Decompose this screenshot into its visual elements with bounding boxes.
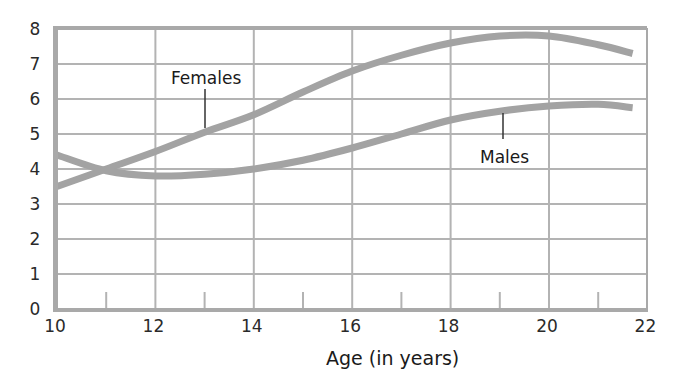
x-tick-14: 14 xyxy=(241,316,263,336)
y-axis-tick-labels: 012345678 xyxy=(30,19,41,319)
y-tick-6: 6 xyxy=(30,89,41,109)
series-label-females: Females xyxy=(171,68,241,88)
x-tick-10: 10 xyxy=(44,316,66,336)
y-tick-8: 8 xyxy=(30,19,41,39)
curve-males xyxy=(57,104,633,176)
y-tick-1: 1 xyxy=(30,264,41,284)
y-tick-5: 5 xyxy=(30,124,41,144)
curve-females xyxy=(57,35,633,186)
x-tick-18: 18 xyxy=(438,316,460,336)
x-axis-title: Age (in years) xyxy=(326,347,459,369)
y-tick-2: 2 xyxy=(30,229,41,249)
y-tick-7: 7 xyxy=(30,54,41,74)
x-axis-tick-labels: 10121416182022 xyxy=(44,316,656,336)
y-tick-0: 0 xyxy=(30,299,41,319)
x-tick-16: 16 xyxy=(339,316,361,336)
y-tick-4: 4 xyxy=(30,159,41,179)
x-tick-12: 12 xyxy=(143,316,165,336)
series-label-males: Males xyxy=(480,147,529,167)
chart: 012345678 10121416182022 FemalesMales Ag… xyxy=(0,0,681,392)
x-tick-22: 22 xyxy=(635,316,657,336)
y-tick-3: 3 xyxy=(30,194,41,214)
series-curves xyxy=(57,35,633,186)
x-tick-20: 20 xyxy=(536,316,558,336)
